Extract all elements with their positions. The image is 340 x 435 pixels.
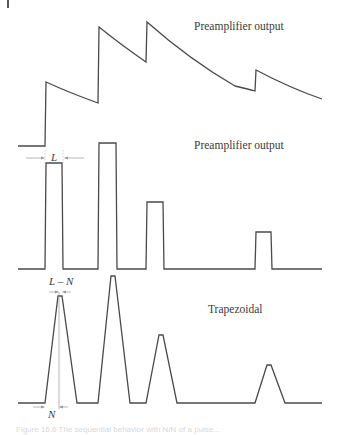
middle-panel-label: Preamplifier output [194, 139, 285, 152]
page-margin-marker [7, 0, 9, 8]
bottom-panel-label: Trapezoidal [208, 303, 263, 316]
rectangular-pulses-waveform [18, 143, 322, 269]
arrowhead-icon [41, 406, 45, 409]
diagram-canvas: Preamplifier output Preamplifier output … [0, 0, 340, 435]
arrowhead-icon [55, 291, 59, 294]
preamp-step-waveform [18, 22, 322, 146]
L-label: L [50, 151, 57, 163]
arrowhead-icon [62, 291, 66, 294]
arrowhead-icon [41, 157, 45, 160]
N-label: N [47, 408, 56, 420]
figure-caption: Figure 16.6 The sequential behavior with… [16, 425, 220, 434]
top-panel-label: Preamplifier output [194, 20, 285, 33]
arrowhead-icon [59, 406, 63, 409]
trapezoidal-pulses-waveform [18, 276, 322, 403]
L-minus-N-label: L – N [48, 275, 74, 287]
arrowhead-icon [64, 157, 68, 160]
